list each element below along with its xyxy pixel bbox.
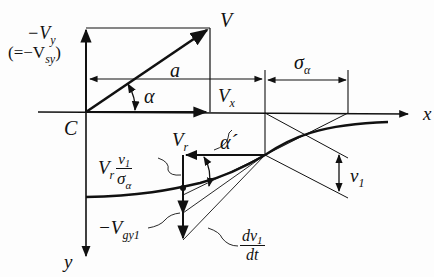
alpha-arc (128, 84, 135, 110)
v-label: V (220, 10, 232, 30)
sigma-label: σα (294, 52, 310, 72)
velocity-vector-diagram: −Vy (=−Vsy) V a α Vx σα x C y Vr α´ Vrv1… (0, 0, 434, 277)
v1-label: v1 (350, 166, 364, 185)
neg-vgy1-label: −Vgy1 (98, 218, 140, 237)
x-axis-label: x (423, 104, 431, 123)
vr-label: Vr (172, 130, 188, 149)
vx-label: Vx (218, 86, 235, 105)
eq-vsy-label: (=−Vsy) (8, 44, 61, 61)
alpha-label: α (144, 86, 155, 106)
a-label: a (170, 60, 180, 80)
alpha-prime-label: α´ (220, 132, 237, 152)
vr-ratio-label: Vrv1σα (98, 152, 132, 187)
neg-vy-label: −Vy (27, 24, 55, 42)
y-axis-label: y (64, 252, 72, 271)
dv1-dt-label: dv1dt (240, 228, 265, 263)
c-label: C (64, 118, 77, 138)
